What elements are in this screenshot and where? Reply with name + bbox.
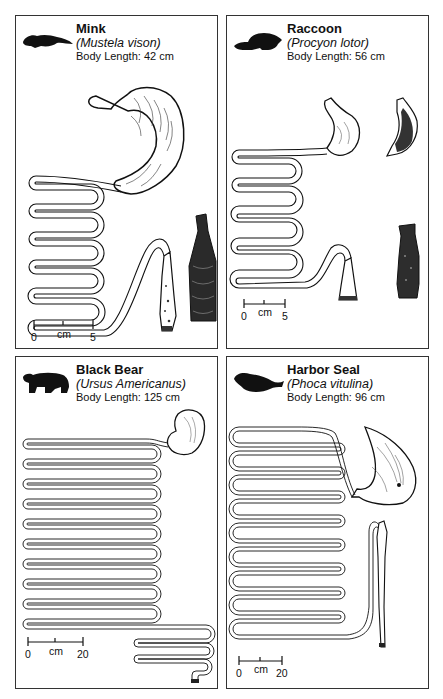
panel-header: Raccoon (Procyon lotor) Body Length: 56 … <box>287 21 385 63</box>
scientific-name: (Phoca vitulina) <box>287 377 385 391</box>
scientific-name: (Mustela vison) <box>76 36 174 50</box>
small-intestine-coils <box>28 176 170 336</box>
harbor-seal-digestive-tract-illustration <box>227 357 430 690</box>
scientific-name: (Procyon lotor) <box>287 36 385 50</box>
seal-silhouette-icon <box>232 369 284 395</box>
scale-bar: 0 cm 20 <box>27 635 97 665</box>
panel-header: Mink (Mustela vison) Body Length: 42 cm <box>76 21 174 63</box>
scale-bar: 0 cm 5 <box>243 297 293 327</box>
small-intestine-coils <box>230 148 351 288</box>
common-name: Harbor Seal <box>287 362 385 377</box>
body-length: Body Length: 125 cm <box>76 391 186 404</box>
panel-harbor-seal: Harbor Seal (Phoca vitulina) Body Length… <box>226 356 429 689</box>
raccoon-silhouette-icon <box>232 28 284 54</box>
mink-silhouette-icon <box>21 28 73 52</box>
panel-header: Harbor Seal (Phoca vitulina) Body Length… <box>287 362 385 404</box>
small-intestine-coils <box>229 427 379 639</box>
panel-mink: Mink (Mustela vison) Body Length: 42 cm … <box>15 15 218 349</box>
panel-raccoon: Raccoon (Procyon lotor) Body Length: 56 … <box>226 15 429 349</box>
bear-silhouette-icon <box>21 369 73 395</box>
common-name: Black Bear <box>76 362 186 377</box>
common-name: Mink <box>76 21 174 36</box>
scale-bar: 0 cm 5 <box>33 318 103 348</box>
body-length: Body Length: 56 cm <box>287 50 385 63</box>
panel-black-bear: Black Bear (Ursus Americanus) Body Lengt… <box>15 356 218 689</box>
mink-digestive-tract-illustration <box>16 16 219 350</box>
body-length: Body Length: 42 cm <box>76 50 174 63</box>
body-length: Body Length: 96 cm <box>287 391 385 404</box>
scale-bar: 0 cm 20 <box>238 654 298 684</box>
common-name: Raccoon <box>287 21 385 36</box>
panel-header: Black Bear (Ursus Americanus) Body Lengt… <box>76 362 186 404</box>
scientific-name: (Ursus Americanus) <box>76 377 186 391</box>
